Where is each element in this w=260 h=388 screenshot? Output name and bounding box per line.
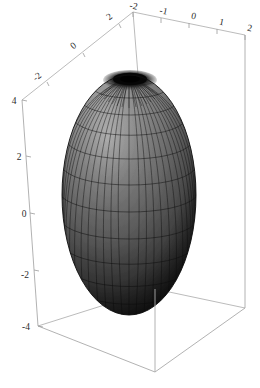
- ellipsoid-bottom-shading: [62, 75, 196, 315]
- axis-top-right-tick-label: 2: [246, 23, 253, 34]
- axis-vertical-labels: 4 2 0 -2 -4: [12, 96, 31, 332]
- axis-top-right-tick-label: -2: [129, 0, 139, 11]
- axis-vertical-tick-label: 0: [22, 209, 27, 219]
- box-edge-front-bottom-right: [155, 308, 245, 372]
- axis-left-back-labels: 2 0 -2: [31, 11, 114, 83]
- tick-vertical-neg4: [38, 326, 43, 327]
- box-edge-front-bottom-left: [38, 326, 155, 372]
- axis-top-right-labels: -2 -1 0 1 2: [129, 0, 254, 33]
- tick-vertical-4: [22, 100, 27, 101]
- axis-top-right-tick-label: 1: [218, 17, 225, 28]
- plot-canvas: 2 0 -2 -2 -1 0 1 2 4 2 0 -2 -4: [0, 0, 260, 388]
- axis-top-right-tick-label: -1: [159, 5, 169, 16]
- tick-back-left-neg2: [47, 82, 49, 86]
- ellipsoid-surface: [62, 70, 196, 315]
- axis-top-right-tick-label: 0: [190, 11, 197, 22]
- tick-back-left-2: [119, 24, 121, 28]
- axis-left-back-tick-label: -2: [31, 70, 44, 83]
- axis-vertical-tick-label: 4: [12, 96, 17, 106]
- axis-left-back-tick-label: 0: [68, 40, 78, 51]
- tick-back-left-0: [83, 53, 85, 57]
- axis-vertical-tick-label: 2: [17, 152, 22, 162]
- tick-vertical-0: [30, 213, 35, 214]
- ellipsoid-3d-plot: 2 0 -2 -2 -1 0 1 2 4 2 0 -2 -4: [0, 0, 260, 388]
- tick-vertical-2: [26, 156, 31, 157]
- axis-vertical-tick-label: -4: [22, 322, 30, 332]
- tick-vertical-neg2: [34, 270, 39, 271]
- axis-left-back-tick-label: 2: [104, 11, 114, 22]
- axis-vertical-tick-label: -2: [21, 270, 29, 280]
